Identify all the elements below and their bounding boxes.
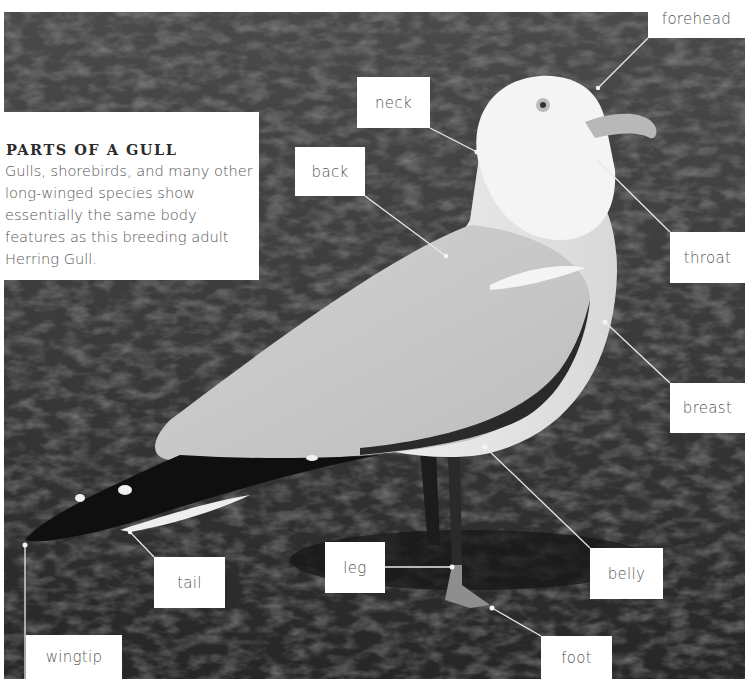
intro-box: PARTS OF A GULL Gulls, shorebirds, and m… [0,112,259,280]
label-tail: tail [154,557,225,608]
label-leg: leg [325,542,385,593]
diagram-title: PARTS OF A GULL [6,141,177,158]
diagram-description: Gulls, shorebirds, and many other long-w… [5,160,259,270]
label-foot: foot [541,636,612,679]
label-belly: belly [590,548,663,599]
label-wingtip: wingtip [26,635,122,679]
label-breast: breast [670,383,745,433]
label-neck: neck [357,77,430,128]
label-forehead: forehead [648,0,745,38]
label-throat: throat [670,232,745,283]
label-back: back [295,147,365,196]
